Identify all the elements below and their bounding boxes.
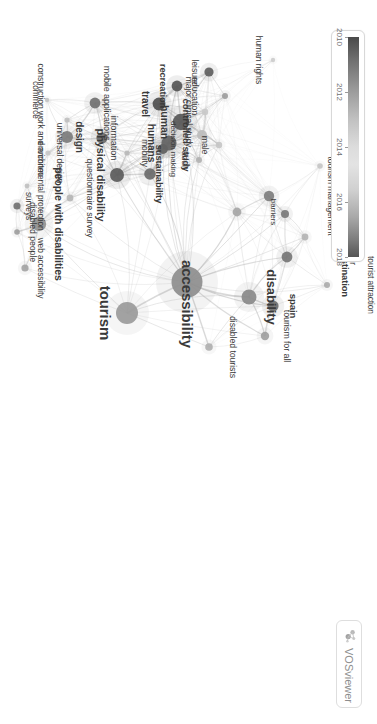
edge	[285, 166, 320, 214]
vosviewer-brand-label: VOSviewer	[344, 648, 355, 703]
network-node[interactable]	[32, 217, 46, 231]
vosviewer-logo-icon	[340, 629, 358, 643]
network-node[interactable]	[216, 142, 222, 148]
network-node[interactable]	[13, 202, 20, 209]
legend-tick-label: 2012	[335, 83, 344, 101]
network-node[interactable]	[271, 58, 275, 62]
network-node[interactable]	[324, 282, 330, 288]
network-node[interactable]	[242, 290, 257, 305]
legend-tick	[345, 92, 348, 93]
network-node[interactable]	[202, 109, 208, 115]
network-node[interactable]	[96, 132, 107, 143]
network-node[interactable]	[204, 67, 213, 76]
network-node[interactable]	[196, 157, 202, 163]
edge	[219, 96, 225, 145]
network-node[interactable]	[90, 98, 101, 109]
edge	[273, 60, 320, 166]
legend-tick	[345, 37, 348, 38]
legend-tick-label: 2014	[335, 138, 344, 156]
legend-tick-label: 2010	[335, 28, 344, 46]
network-node[interactable]	[45, 98, 49, 102]
network-node[interactable]	[110, 168, 124, 182]
edge	[205, 112, 320, 166]
legend-tick	[345, 257, 348, 258]
network-node[interactable]	[261, 332, 269, 340]
color-legend-panel: 20102012201420162018	[331, 30, 365, 262]
network-node[interactable]	[124, 150, 129, 155]
network-node[interactable]	[282, 252, 293, 263]
network-node[interactable]	[222, 93, 228, 99]
edge	[17, 138, 102, 206]
network-node[interactable]	[61, 131, 73, 143]
legend-tick-label: 2018	[335, 248, 344, 266]
network-node[interactable]	[267, 300, 278, 311]
edge	[237, 212, 265, 336]
network-node[interactable]	[205, 343, 213, 351]
network-node[interactable]	[172, 81, 183, 92]
network-node[interactable]	[264, 191, 274, 201]
color-gradient-bar	[348, 37, 359, 257]
network-node[interactable]	[153, 98, 166, 111]
legend-tick	[345, 147, 348, 148]
vosviewer-badge[interactable]: VOSviewer	[336, 620, 362, 708]
network-node[interactable]	[116, 302, 138, 324]
network-node[interactable]	[302, 234, 309, 241]
color-legend: 20102012201420162018	[317, 22, 377, 272]
network-node[interactable]	[144, 168, 156, 180]
legend-tick	[345, 202, 348, 203]
network-node[interactable]	[45, 150, 50, 155]
network-node[interactable]	[161, 135, 176, 150]
network-node[interactable]	[67, 195, 74, 202]
network-node[interactable]	[14, 229, 20, 235]
vosviewer-canvas[interactable]: accessibilitytourismdisabilitytourism ma…	[0, 0, 377, 724]
network-node[interactable]	[172, 267, 203, 298]
network-node[interactable]	[25, 184, 30, 189]
network-node[interactable]	[233, 208, 242, 217]
edge	[269, 60, 275, 196]
edge	[225, 96, 320, 166]
network-node[interactable]	[64, 117, 69, 122]
network-node[interactable]	[21, 264, 28, 271]
legend-tick-label: 2016	[335, 193, 344, 211]
edge	[17, 100, 47, 206]
network-node[interactable]	[173, 114, 189, 130]
network-node[interactable]	[281, 210, 289, 218]
network-node[interactable]	[197, 130, 207, 140]
vosviewer-badge-wrap: VOSviewer	[322, 612, 374, 716]
